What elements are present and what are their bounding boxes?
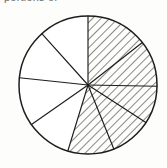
pie-chart-svg [0, 0, 167, 168]
figure-root: portions of [0, 0, 167, 168]
